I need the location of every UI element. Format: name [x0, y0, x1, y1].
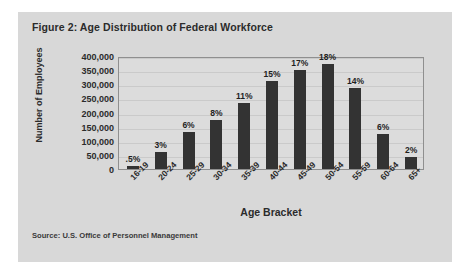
y-axis-tick: 150,000 — [81, 123, 114, 133]
bar — [294, 70, 306, 169]
bar-value-label: 6% — [377, 122, 389, 132]
bar-chart: Number of Employees 400,000350,000300,00… — [18, 38, 452, 228]
bar — [266, 81, 278, 169]
y-axis-tick: 400,000 — [81, 52, 114, 62]
bar-series: .5%3%6%8%11%15%17%18%14%6%2% — [119, 58, 423, 169]
bar-value-label: 17% — [291, 58, 308, 68]
bar — [238, 103, 250, 169]
y-axis-tick: 300,000 — [81, 80, 114, 90]
figure-title: Figure 2: Age Distribution of Federal Wo… — [32, 21, 273, 33]
bar-slot: 8% — [202, 58, 230, 169]
y-axis-tick: 250,000 — [81, 94, 114, 104]
bar-slot: 11% — [230, 58, 258, 169]
bar-value-label: 15% — [263, 69, 280, 79]
source-note: Source: U.S. Office of Personnel Managem… — [32, 231, 197, 240]
bar-value-label: .5% — [126, 154, 141, 164]
y-axis-tick: 350,000 — [81, 66, 114, 76]
y-axis-title: Number of Employees — [34, 30, 44, 160]
bar — [210, 120, 222, 169]
bar-slot: .5% — [119, 58, 147, 169]
x-axis-tick-labels: 16-1920-2425-2930-3435-3940-4445-4950-54… — [118, 171, 424, 205]
bar-value-label: 6% — [182, 120, 194, 130]
bar-value-label: 2% — [405, 145, 417, 155]
y-axis-tick: 100,000 — [81, 137, 114, 147]
plot-area: .5%3%6%8%11%15%17%18%14%6%2% — [118, 57, 424, 170]
bar-slot: 6% — [369, 58, 397, 169]
y-axis-tick: 200,000 — [81, 109, 114, 119]
bar-slot: 2% — [397, 58, 425, 169]
bar — [322, 64, 334, 169]
bar — [349, 88, 361, 169]
y-axis-tick: 50,000 — [86, 151, 114, 161]
bar-slot: 3% — [147, 58, 175, 169]
bar-value-label: 3% — [155, 140, 167, 150]
bar — [183, 132, 195, 169]
bar-slot: 14% — [342, 58, 370, 169]
bar-slot: 18% — [314, 58, 342, 169]
y-axis-tick: 0 — [109, 165, 114, 175]
bar-value-label: 11% — [236, 91, 253, 101]
bar-value-label: 18% — [319, 52, 336, 62]
bar-value-label: 8% — [210, 108, 222, 118]
y-axis-tick-labels: 400,000350,000300,000250,000200,000150,0… — [52, 57, 114, 170]
x-axis-title: Age Bracket — [118, 206, 424, 218]
bar-slot: 15% — [258, 58, 286, 169]
bar-value-label: 14% — [347, 76, 364, 86]
bar-slot: 17% — [286, 58, 314, 169]
bar-slot: 6% — [175, 58, 203, 169]
figure-container: Figure 2: Age Distribution of Federal Wo… — [18, 12, 452, 262]
